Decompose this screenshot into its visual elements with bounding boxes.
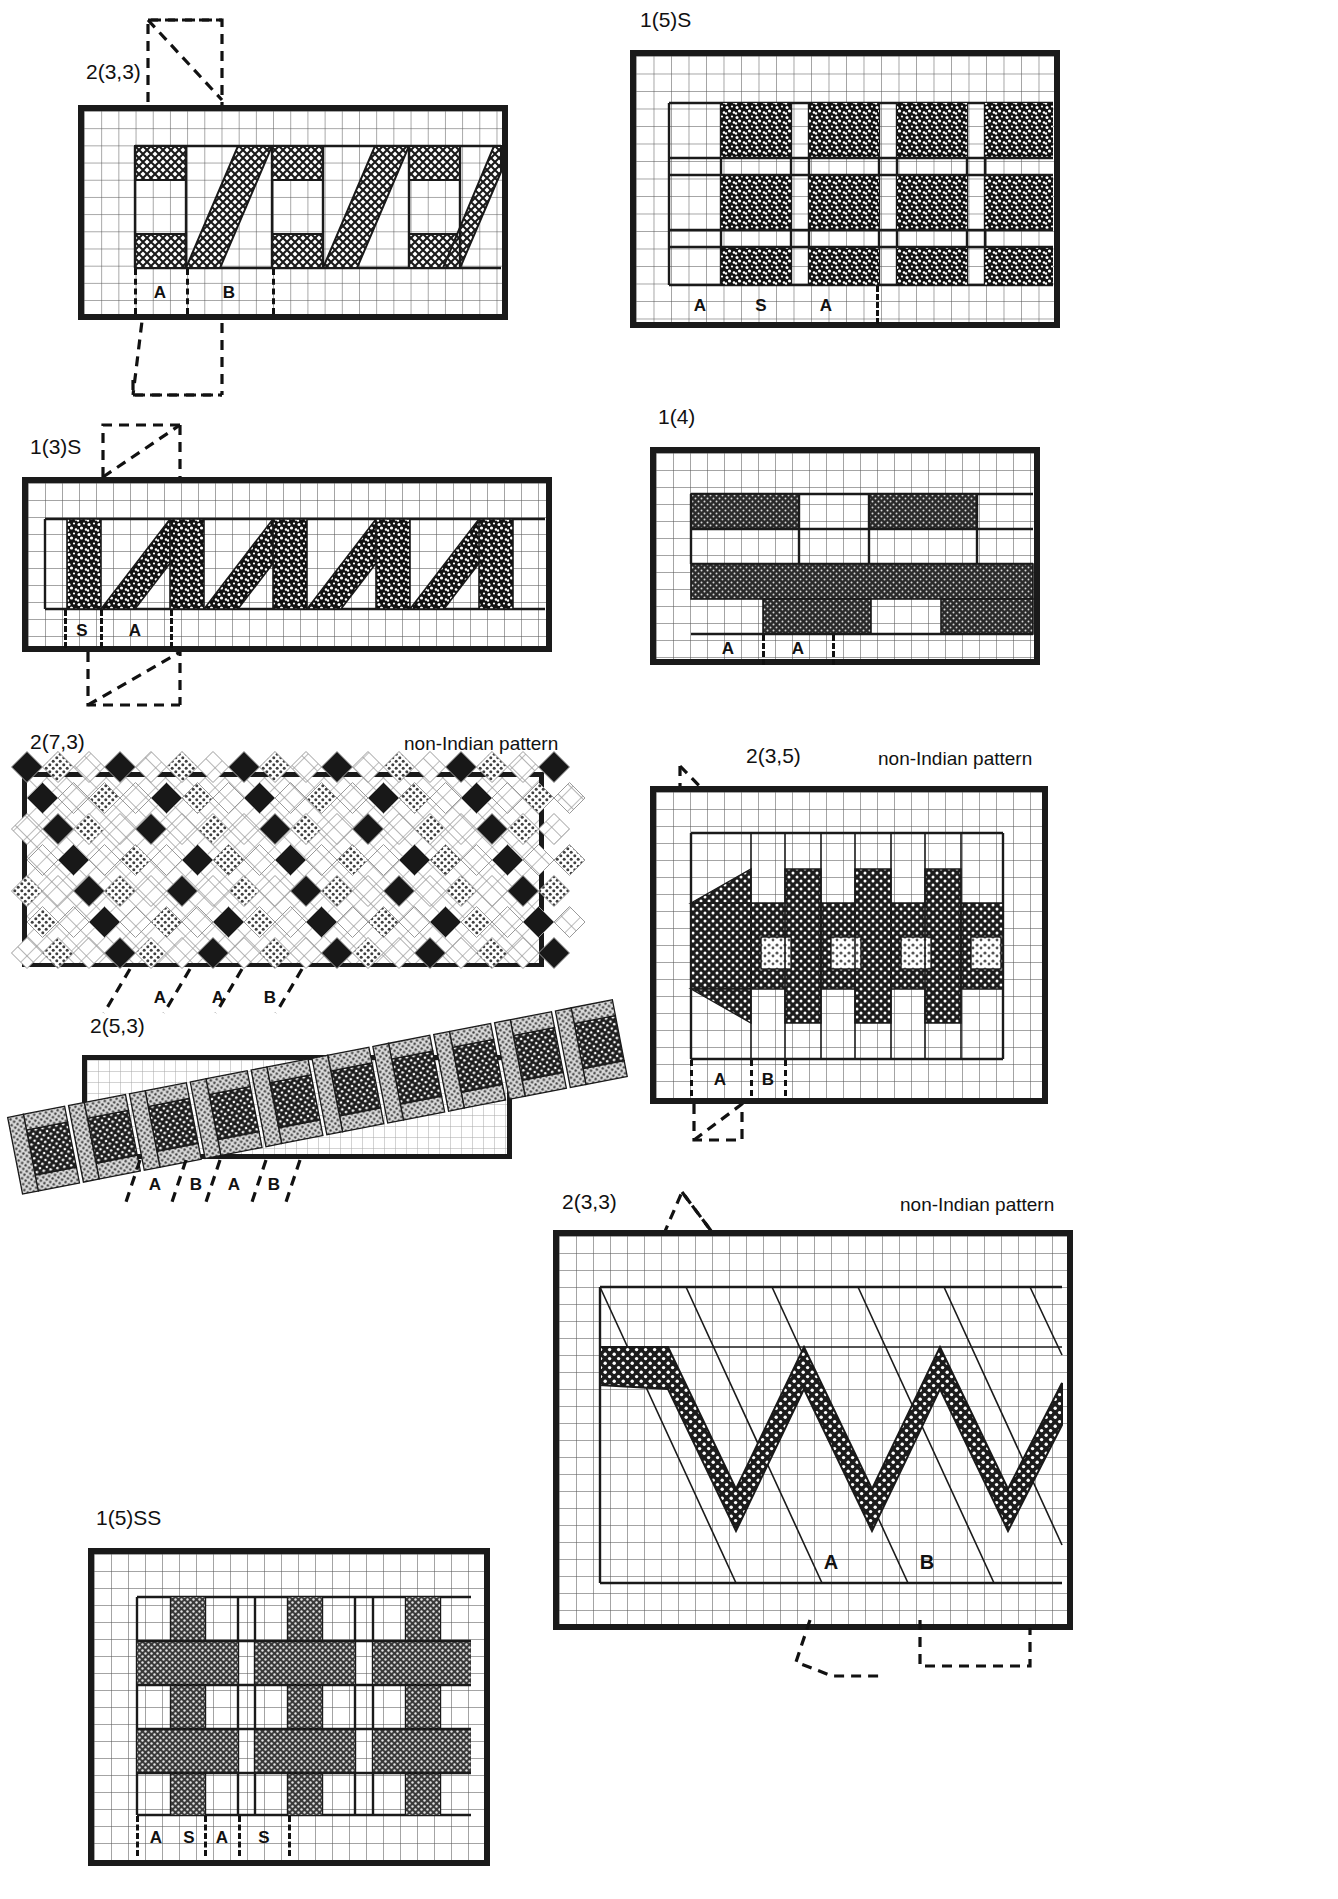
repeat-markers-p9 bbox=[770, 1620, 1100, 1690]
repeat-label: B bbox=[920, 1551, 934, 1574]
weave-motif-p9 bbox=[558, 1235, 1068, 1625]
weave-frame-p9: A B bbox=[553, 1230, 1073, 1630]
repeat-label: A bbox=[824, 1551, 838, 1574]
